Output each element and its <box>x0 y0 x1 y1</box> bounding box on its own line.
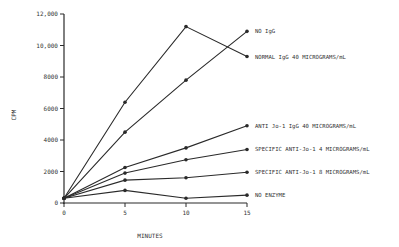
data-point <box>184 146 188 150</box>
data-point <box>62 196 66 200</box>
y-tick-label: 8000 <box>44 73 59 80</box>
cpm-vs-minutes-line-chart: 0200040006000800010,00012,000051015 NO I… <box>0 0 399 247</box>
series-label: NORMAL IgG 40 MICROGRAMS/mL <box>255 54 347 61</box>
y-tick-label: 12,000 <box>36 10 58 17</box>
y-tick-label: 6000 <box>44 105 59 112</box>
series-label: ANTI Jo-1 IgG 40 MICROGRAMS/mL <box>255 123 357 130</box>
data-point <box>184 78 188 82</box>
data-point <box>123 178 127 182</box>
y-axis-label: CPM <box>10 109 17 120</box>
data-point <box>123 189 127 193</box>
series-labels: NO IgGNORMAL IgG 40 MICROGRAMS/mLANTI Jo… <box>255 28 370 198</box>
data-point <box>184 196 188 200</box>
data-point <box>245 55 249 59</box>
data-point <box>123 130 127 134</box>
data-point <box>245 124 249 128</box>
series-line <box>62 148 249 200</box>
x-axis-label: MINUTES <box>137 232 163 239</box>
data-point <box>245 193 249 197</box>
data-point <box>245 30 249 34</box>
chart-canvas: 0200040006000800010,00012,000051015 NO I… <box>0 0 399 247</box>
axes: 0200040006000800010,00012,000051015 <box>36 10 251 216</box>
y-tick-label: 2000 <box>44 168 59 175</box>
series-group <box>62 25 249 200</box>
x-tick-label: 10 <box>182 209 190 216</box>
y-tick-label: 10,000 <box>36 42 58 49</box>
y-tick-label: 0 <box>54 199 58 206</box>
x-tick-label: 15 <box>243 209 251 216</box>
data-point <box>184 158 188 162</box>
data-point <box>123 166 127 170</box>
x-tick-label: 5 <box>123 209 127 216</box>
series-label: NO ENZYME <box>255 192 286 198</box>
series-line <box>62 25 249 200</box>
data-point <box>245 170 249 174</box>
data-point <box>123 171 127 175</box>
y-tick-label: 4000 <box>44 136 59 143</box>
data-point <box>123 100 127 104</box>
series-label: SPECIFIC ANTI-Jo-1 4 MICROGRAMS/mL <box>255 146 370 152</box>
x-tick-label: 0 <box>62 209 66 216</box>
series-label: SPECIFIC ANTI-Jo-1 8 MICROGRAMS/mL <box>255 169 370 175</box>
data-point <box>184 176 188 180</box>
series-label: NO IgG <box>255 28 276 35</box>
data-point <box>245 148 249 152</box>
series-line <box>62 124 249 200</box>
data-point <box>184 25 188 29</box>
